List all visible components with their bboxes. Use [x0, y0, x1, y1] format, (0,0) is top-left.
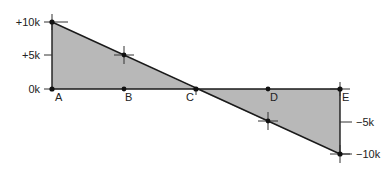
right-axis-ticks: [340, 122, 352, 154]
point-label-b: B: [125, 91, 132, 103]
point-label-e: E: [342, 91, 349, 103]
y-label-10k: +10k: [16, 16, 41, 28]
y-label-5k: +5k: [22, 49, 41, 61]
point-label-d: D: [270, 91, 278, 103]
y-label-neg10k: −10k: [356, 148, 381, 160]
y-label-neg5k: −5k: [356, 116, 375, 128]
y-label-0k: 0k: [28, 83, 40, 95]
shear-diagram: +10k +5k 0k −5k −10k A B C D E: [0, 0, 391, 175]
point-label-a: A: [55, 91, 63, 103]
point-label-c: C: [186, 91, 194, 103]
